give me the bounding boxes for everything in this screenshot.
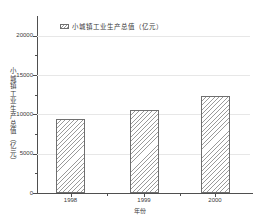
legend-label: 小城镇工业生产总值（亿元） — [72, 21, 163, 31]
gridline — [37, 36, 250, 37]
x-axis — [37, 193, 253, 194]
y-axis-minor-tick — [35, 55, 38, 56]
x-axis-minor-tick — [180, 193, 181, 196]
y-axis-minor-tick — [35, 173, 38, 174]
y-axis-minor-tick — [35, 95, 38, 96]
x-axis-minor-tick — [107, 193, 108, 196]
y-axis-tick — [33, 154, 37, 155]
gridline — [37, 75, 250, 76]
y-axis-tick — [33, 75, 37, 76]
x-tick-label: 1998 — [56, 197, 86, 204]
y-tick-label: 15000 — [0, 72, 33, 79]
x-tick-label: 2000 — [200, 197, 230, 204]
y-tick-label: 10000 — [0, 111, 33, 118]
x-tick-label: 1999 — [129, 197, 159, 204]
y-axis-tick — [33, 193, 37, 194]
y-tick-label: 20000 — [0, 32, 33, 39]
bar — [56, 119, 85, 193]
bar — [130, 110, 159, 193]
y-axis-tick — [33, 36, 37, 37]
legend: 小城镇工业生产总值（亿元） — [60, 21, 163, 31]
y-axis — [37, 16, 38, 193]
legend-hatch-swatch-icon — [60, 24, 69, 29]
bar-chart: 小城镇工业生产总值（亿元） 小城镇工业生产总值（亿元） 年份 050001000… — [0, 0, 262, 222]
y-axis-tick — [33, 114, 37, 115]
y-axis-minor-tick — [35, 134, 38, 135]
y-tick-label: 5000 — [0, 150, 33, 157]
bar — [201, 96, 230, 193]
y-tick-label: 0 — [0, 190, 33, 197]
x-axis-title: 年份 — [100, 206, 180, 215]
